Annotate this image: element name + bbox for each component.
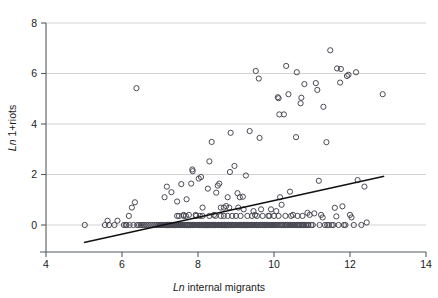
data-point (380, 92, 385, 97)
data-point (227, 169, 232, 174)
data-point (268, 207, 273, 212)
data-point (324, 140, 329, 145)
data-point (332, 205, 337, 210)
axis-title-rest: internal migrants (185, 281, 266, 293)
data-point (200, 205, 205, 210)
axis-title-italic: Ln (6, 139, 18, 151)
fit-line (84, 176, 384, 242)
data-point (162, 195, 167, 200)
data-point (340, 204, 345, 209)
data-point (247, 128, 252, 133)
scatter-points (82, 48, 385, 228)
data-point (175, 199, 180, 204)
x-tick-label: 8 (195, 258, 201, 270)
data-point (243, 173, 248, 178)
data-point (302, 82, 307, 87)
axis-title-rest: 1+riots (6, 105, 18, 140)
y-tick-label: 8 (31, 17, 37, 29)
data-point (300, 213, 305, 218)
data-point (225, 195, 230, 200)
data-point (164, 184, 169, 189)
data-point (364, 220, 369, 225)
data-point (284, 63, 289, 68)
data-point (362, 184, 367, 189)
data-point (228, 130, 233, 135)
data-point (126, 213, 131, 218)
data-point (312, 211, 317, 216)
data-point (129, 205, 134, 210)
data-point (294, 70, 299, 75)
x-tick-label: 4 (43, 258, 49, 270)
data-point (260, 213, 265, 218)
data-point (258, 207, 263, 212)
data-point (134, 86, 139, 91)
y-tick-label: 2 (31, 168, 37, 180)
x-axis-tick-labels: 468101214 (43, 258, 432, 270)
axis-title-italic: Ln (173, 281, 185, 293)
data-point (253, 68, 258, 73)
x-axis-title: Ln internal migrants (173, 281, 265, 293)
data-point (186, 212, 191, 217)
data-point (346, 72, 351, 77)
data-point (257, 135, 262, 140)
data-point (132, 200, 137, 205)
data-point (209, 139, 214, 144)
data-point (214, 190, 219, 195)
data-point (315, 87, 320, 92)
data-point (256, 76, 261, 81)
data-point (328, 48, 333, 53)
data-point (313, 80, 318, 85)
chart-figure: 02468 468101214 Ln internal migrants Ln … (0, 0, 438, 298)
data-point (293, 135, 298, 140)
data-point (279, 202, 284, 207)
data-point (316, 178, 321, 183)
y-axis-ticks (41, 23, 46, 225)
data-point (321, 104, 326, 109)
data-point (338, 80, 343, 85)
x-axis-ticks (46, 252, 426, 257)
regression-line (84, 176, 384, 242)
data-point (353, 70, 358, 75)
data-point (299, 95, 304, 100)
x-tick-label: 14 (420, 258, 432, 270)
data-point (232, 163, 237, 168)
data-point (287, 189, 292, 194)
y-tick-label: 0 (31, 219, 37, 231)
data-point (184, 197, 189, 202)
y-axis-tick-labels: 02468 (31, 17, 37, 231)
y-tick-label: 6 (31, 67, 37, 79)
data-point (189, 181, 194, 186)
data-point (338, 66, 343, 71)
x-tick-label: 12 (344, 258, 356, 270)
x-tick-label: 10 (268, 258, 280, 270)
data-point (115, 218, 120, 223)
x-tick-label: 6 (119, 258, 125, 270)
y-tick-label: 4 (31, 118, 37, 130)
data-point (334, 214, 339, 219)
data-point (207, 159, 212, 164)
data-point (274, 209, 279, 214)
data-point (205, 186, 210, 191)
y-axis-title: Ln 1+riots (6, 105, 18, 151)
data-point (179, 181, 184, 186)
data-point (169, 190, 174, 195)
data-point (283, 213, 288, 218)
data-point (298, 101, 303, 106)
scatter-plot: 02468 468101214 Ln internal migrants Ln … (0, 0, 438, 298)
data-point (286, 92, 291, 97)
